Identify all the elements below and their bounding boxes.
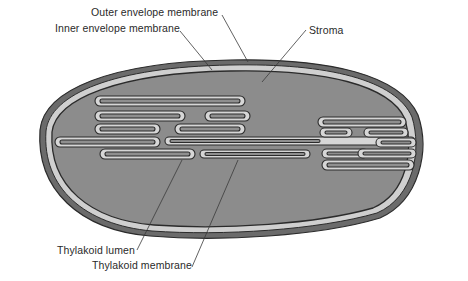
label-inner-envelope-membrane: Inner envelope membrane [55, 22, 180, 34]
label-thylakoid-membrane: Thylakoid membrane [92, 259, 192, 271]
label-outer-envelope-membrane: Outer envelope membrane [91, 6, 218, 18]
label-stroma: Stroma [309, 24, 343, 36]
label-thylakoid-lumen: Thylakoid lumen [57, 244, 135, 256]
chloroplast-diagram [0, 0, 468, 281]
leader-outer-envelope [222, 15, 248, 62]
